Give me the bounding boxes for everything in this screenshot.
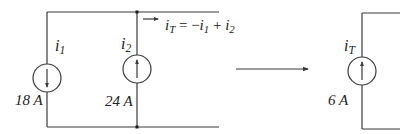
bottom-node-dot	[136, 126, 139, 129]
eq-term2-subscript: 2	[229, 23, 234, 35]
source-1-value: 18 A	[15, 93, 43, 108]
eq-plus: +	[209, 17, 225, 33]
source-1-subscript: 1	[59, 44, 65, 56]
equivalent-current-source-icon	[348, 57, 376, 85]
source-2-value: 24 A	[105, 94, 133, 109]
eq-equals-minus: = −	[175, 17, 199, 33]
circuit-diagram: i1 18 A i2 24 A iT = −i1 + i2 iT 6 A	[0, 0, 412, 134]
equivalent-source-value: 6 A	[328, 93, 348, 108]
equivalent-source-symbol: iT	[344, 38, 355, 57]
source-1-symbol: i1	[55, 38, 65, 57]
source-2-symbol: i2	[121, 36, 131, 55]
kcl-equation: iT = −i1 + i2	[165, 18, 235, 35]
current-source-2-icon	[123, 55, 151, 83]
source-2-subscript: 2	[125, 42, 131, 54]
current-source-1-icon	[33, 64, 61, 92]
top-node-dot	[136, 11, 139, 14]
equivalent-source-subscript: T	[348, 44, 354, 56]
